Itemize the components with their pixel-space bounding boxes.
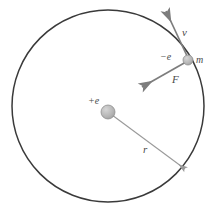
bohr-atom-diagram: −e m v F +e r [0, 0, 218, 224]
electron-charge-label: −e [160, 52, 171, 62]
electron-particle [183, 55, 193, 65]
force-vector-line [142, 62, 186, 87]
force-vector-label: F [172, 74, 179, 85]
nucleus-charge-label: +e [88, 96, 99, 106]
velocity-vector-label: v [182, 27, 187, 38]
radius-label: r [143, 144, 147, 155]
electron-mass-label: m [196, 55, 203, 65]
radius-vector-line [108, 112, 185, 169]
nucleus-particle [101, 105, 115, 119]
